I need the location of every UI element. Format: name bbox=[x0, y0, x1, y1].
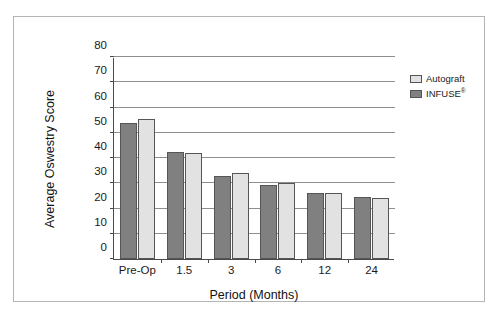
y-tick-label: 0 bbox=[101, 242, 107, 254]
y-tick-mark bbox=[110, 258, 114, 259]
legend-label: Autograft bbox=[426, 74, 465, 84]
x-tick-label: 1.5 bbox=[176, 265, 192, 277]
bar bbox=[138, 119, 155, 259]
gridline bbox=[114, 132, 395, 133]
x-tick-mark bbox=[301, 259, 302, 263]
bar bbox=[214, 176, 231, 259]
bar bbox=[325, 193, 342, 259]
x-axis-title: Period (Months) bbox=[210, 288, 299, 302]
x-tick-label: Pre-Op bbox=[119, 265, 156, 277]
y-tick-mark bbox=[110, 208, 114, 209]
x-tick-label: 3 bbox=[228, 265, 234, 277]
y-tick-label: 10 bbox=[94, 217, 107, 229]
bar bbox=[232, 173, 249, 259]
bar bbox=[120, 123, 137, 259]
bar bbox=[260, 185, 277, 259]
x-tick-label: 12 bbox=[318, 265, 331, 277]
gridline bbox=[114, 81, 395, 82]
gridline bbox=[114, 182, 395, 183]
x-tick-label: 24 bbox=[365, 265, 378, 277]
y-tick-label: 70 bbox=[94, 66, 107, 78]
figure: Average Oswestry Score Period (Months) 0… bbox=[0, 0, 499, 319]
y-tick-mark bbox=[110, 182, 114, 183]
y-tick-mark bbox=[110, 233, 114, 234]
y-tick-label: 60 bbox=[94, 91, 107, 103]
gridline bbox=[114, 56, 395, 57]
y-tick-label: 80 bbox=[94, 40, 107, 52]
bar bbox=[307, 193, 324, 259]
x-tick-label: 6 bbox=[275, 265, 281, 277]
gridline bbox=[114, 233, 395, 234]
bar bbox=[354, 197, 371, 259]
legend-item: INFUSE® bbox=[410, 87, 466, 100]
y-tick-mark bbox=[110, 132, 114, 133]
y-tick-label: 30 bbox=[94, 167, 107, 179]
y-tick-label: 40 bbox=[94, 141, 107, 153]
plot-area: 01020304050607080 Pre-Op1.5361224 bbox=[113, 58, 394, 260]
y-tick-mark bbox=[110, 157, 114, 158]
figure-frame: Average Oswestry Score Period (Months) 0… bbox=[13, 16, 485, 302]
y-tick-mark bbox=[110, 107, 114, 108]
bar bbox=[167, 152, 184, 259]
gridline bbox=[114, 107, 395, 108]
x-tick-mark bbox=[161, 259, 162, 263]
gridline bbox=[114, 157, 395, 158]
bar bbox=[278, 183, 295, 259]
legend-item: Autograft bbox=[410, 72, 466, 85]
legend-swatch-icon bbox=[410, 75, 422, 83]
x-tick-mark bbox=[348, 259, 349, 263]
x-tick-mark bbox=[208, 259, 209, 263]
legend: AutograftINFUSE® bbox=[410, 72, 466, 102]
y-tick-mark bbox=[110, 81, 114, 82]
bar bbox=[185, 153, 202, 259]
x-tick-mark bbox=[255, 259, 256, 263]
legend-swatch-icon bbox=[410, 90, 422, 98]
y-tick-label: 50 bbox=[94, 116, 107, 128]
gridline bbox=[114, 208, 395, 209]
y-tick-mark bbox=[110, 56, 114, 57]
legend-label: INFUSE® bbox=[426, 88, 466, 99]
bar bbox=[372, 198, 389, 259]
y-tick-label: 20 bbox=[94, 192, 107, 204]
y-axis-title: Average Oswestry Score bbox=[43, 90, 57, 228]
